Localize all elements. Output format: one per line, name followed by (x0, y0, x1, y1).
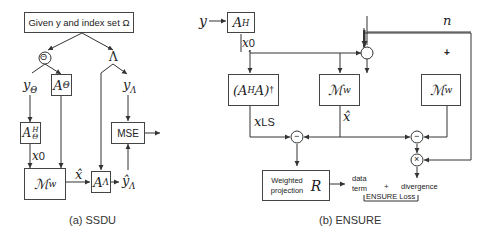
ensure-ah-box: AH (227, 12, 255, 33)
ensure-divergence: divergence (401, 183, 438, 191)
ensure-data-term-1: data (352, 175, 367, 183)
ensure-pinv-box: (AHA)† (228, 74, 279, 106)
ensure-minus-left: − (294, 132, 299, 141)
ensure-caption: (b) ENSURE (319, 214, 381, 226)
ensure-mw-right-box: ℳw (421, 74, 461, 106)
ssdu-mse-text: MSE (117, 128, 139, 139)
weighted-r-symbol: R (311, 178, 322, 194)
ensure-times-node: × (414, 155, 419, 164)
ssdu-caption: (a) SSDU (69, 214, 116, 226)
ensure-data-term-2: term (352, 185, 367, 193)
ssdu-y-theta-label: yΘ (23, 78, 37, 94)
weighted-text: Weighted (271, 176, 303, 185)
ssdu-a-theta-box: AΘ (51, 74, 72, 96)
ensure-weighted-projection-box: Weighted projection R (262, 170, 330, 201)
ensure-x0-label: x0 (242, 37, 255, 49)
ssdu-lambda-node: Λ (109, 51, 118, 63)
ensure-xhat-label: x̂ (343, 110, 350, 123)
ssdu-x0-label: x0 (32, 150, 45, 162)
ssdu-a-theta-h-box: AHΘ (20, 122, 41, 144)
ssdu-a-lambda-box: AΛ (91, 171, 111, 193)
ssdu-theta-node: Θ (40, 53, 47, 62)
ensure-y-input: y (199, 14, 207, 28)
ssdu-mse-box: MSE (111, 122, 145, 144)
ssdu-xhat-label: x̂ (75, 168, 82, 181)
ensure-xls-label: xLS (254, 115, 275, 128)
ensure-mw-center-box: ℳw (319, 74, 360, 106)
ensure-plus-sign: + (384, 183, 389, 191)
ssdu-mw-box: ℳw (24, 168, 66, 200)
projection-text: projection (271, 186, 304, 195)
ensure-minus-right: − (414, 132, 419, 141)
ssdu-yhat-lambda-label: ŷΛ (122, 174, 135, 190)
ensure-plus-node: + (444, 48, 450, 58)
ensure-loss-label: ENSURE Loss (366, 193, 415, 201)
ssdu-given-text: Given y and index set Ω (28, 17, 129, 28)
ensure-n-input: n (443, 14, 451, 27)
ssdu-given-box: Given y and index set Ω (24, 12, 134, 33)
ssdu-y-lambda-label: yΛ (123, 78, 136, 94)
